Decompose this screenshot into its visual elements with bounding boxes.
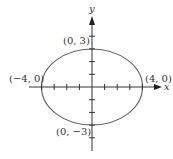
bottom-vertex-label: (0, −3) [56, 126, 91, 137]
right-vertex-label: (4, 0) [145, 73, 172, 84]
y-axis-label: y [88, 3, 95, 14]
x-axis-arrow-icon [154, 84, 162, 90]
ellipse-diagram: y x (0, 3) (−4, 0) (4, 0) (0, −3) [0, 0, 173, 159]
diagram-svg: y x (0, 3) (−4, 0) (4, 0) (0, −3) [0, 0, 173, 159]
top-vertex-label: (0, 3) [63, 35, 90, 46]
y-axis-arrow-icon [89, 16, 95, 25]
left-vertex-label: (−4, 0) [9, 73, 44, 84]
